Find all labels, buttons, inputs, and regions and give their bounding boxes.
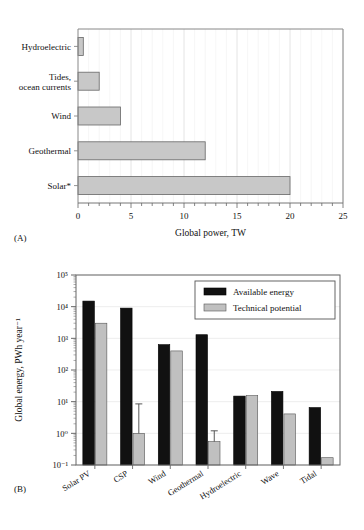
bar-b-available-3 bbox=[196, 335, 208, 465]
ytick-label-b-0: 10⁻¹ bbox=[52, 460, 68, 470]
bar-a-3 bbox=[78, 142, 205, 160]
category-label-a-0: Hydroelectric bbox=[22, 42, 71, 52]
xtick-label-a-3: 15 bbox=[233, 211, 243, 221]
ytick-label-b-3: 10² bbox=[57, 365, 69, 375]
ytick-label-b-2: 10¹ bbox=[57, 397, 69, 407]
category-label-b-6: Tidal bbox=[298, 468, 319, 486]
bar-a-1 bbox=[78, 72, 99, 90]
category-label-a-2: Wind bbox=[51, 111, 71, 121]
ytick-label-b-6: 10⁵ bbox=[57, 270, 69, 280]
panel-b-container: 10⁻¹10⁰10¹10²10³10⁴10⁵Solar PVCSPWindGeo… bbox=[0, 262, 364, 530]
panel-a-chart: HydroelectricTides,ocean currentsWindGeo… bbox=[0, 0, 364, 258]
panel-a-label: (A) bbox=[14, 233, 27, 243]
bar-b-technical-5 bbox=[284, 414, 296, 465]
xtick-label-a-5: 25 bbox=[339, 211, 349, 221]
ytick-label-b-1: 10⁰ bbox=[56, 429, 69, 439]
yaxis-label-b: Global energy, PWh year⁻¹ bbox=[14, 318, 24, 422]
bar-b-available-1 bbox=[121, 308, 133, 465]
ytick-label-b-4: 10³ bbox=[57, 334, 69, 344]
xtick-label-a-2: 10 bbox=[180, 211, 190, 221]
bar-b-available-2 bbox=[158, 345, 170, 465]
panel-b-label: (B) bbox=[14, 484, 26, 494]
category-label-a-4: Solar* bbox=[48, 181, 72, 191]
panel-a-container: HydroelectricTides,ocean currentsWindGeo… bbox=[0, 0, 364, 258]
xtick-label-a-0: 0 bbox=[76, 211, 81, 221]
category-label-b-2: Wind bbox=[146, 468, 168, 487]
panel-b-chart: 10⁻¹10⁰10¹10²10³10⁴10⁵Solar PVCSPWindGeo… bbox=[0, 262, 364, 530]
category-label-a-3: Geothermal bbox=[29, 146, 72, 156]
bar-a-0 bbox=[78, 37, 83, 55]
bar-a-2 bbox=[78, 107, 120, 125]
category-label-a-1: Tides,ocean currents bbox=[19, 72, 72, 93]
bar-b-available-5 bbox=[271, 391, 283, 465]
legend-entry-available: Available energy bbox=[233, 287, 294, 297]
bar-b-available-0 bbox=[83, 301, 95, 465]
category-label-b-4: Hydroelectric bbox=[198, 468, 243, 501]
bar-b-technical-1 bbox=[133, 433, 145, 465]
category-label-b-1: CSP bbox=[112, 468, 130, 485]
bar-b-available-6 bbox=[309, 408, 321, 465]
bar-a-4 bbox=[78, 177, 290, 195]
xaxis-label-a: Global power, TW bbox=[175, 228, 246, 238]
bar-b-technical-3 bbox=[209, 442, 221, 465]
bar-b-technical-6 bbox=[322, 458, 334, 465]
legend-b: Available energyTechnical potential bbox=[195, 281, 335, 319]
bar-b-available-4 bbox=[234, 396, 246, 465]
legend-entry-technical: Technical potential bbox=[233, 303, 302, 313]
ytick-label-b-5: 10⁴ bbox=[57, 302, 69, 312]
xtick-label-a-4: 20 bbox=[286, 211, 296, 221]
bar-b-technical-4 bbox=[246, 396, 258, 465]
category-label-b-0: Solar PV bbox=[60, 468, 92, 493]
bar-b-technical-0 bbox=[95, 323, 107, 465]
category-label-b-5: Wave bbox=[259, 468, 281, 487]
xtick-label-a-1: 5 bbox=[129, 211, 134, 221]
bar-b-technical-2 bbox=[171, 351, 183, 465]
